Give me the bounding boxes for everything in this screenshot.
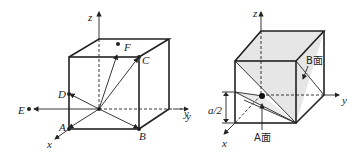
vector-F (99, 55, 117, 109)
point-E (27, 107, 31, 111)
origin-point (97, 107, 101, 111)
left-cube-figure: z y x A B C D E F (17, 11, 189, 150)
z-axis-label: z (252, 7, 258, 19)
label-C: C (142, 54, 150, 66)
right-face (139, 39, 169, 129)
vector-C (99, 58, 138, 109)
point-C (137, 55, 141, 59)
vector-B (99, 109, 138, 128)
plane-A-label: A面 (254, 132, 271, 143)
center-point (259, 93, 265, 99)
dimension-label: a/2 (208, 104, 223, 116)
label-F: F (123, 41, 131, 53)
plane-B-label: B面 (306, 55, 323, 66)
label-E: E (17, 104, 25, 116)
dim-arrow-down (223, 119, 229, 123)
vector-D (70, 94, 99, 109)
z-axis-label: z (87, 11, 93, 23)
point-D (67, 92, 71, 96)
label-B: B (139, 130, 146, 142)
label-A: A (58, 121, 66, 133)
x-axis (224, 123, 235, 134)
x-axis-label: x (46, 138, 52, 150)
right-cube-figure: z y x y a/2 A面 B面 (180, 7, 347, 149)
point-F (116, 42, 120, 46)
diagram-canvas: z y x A B C D E F (0, 0, 359, 157)
hidden-edge-x (235, 95, 261, 123)
label-D: D (57, 88, 66, 100)
vector-A (69, 109, 99, 128)
left-y-axis-label: y (185, 110, 191, 122)
dim-arrow-up (223, 92, 229, 96)
point-A (67, 127, 71, 131)
top-face (69, 39, 169, 57)
x-axis-label: x (221, 137, 227, 149)
y-axis-label: y (341, 94, 347, 106)
